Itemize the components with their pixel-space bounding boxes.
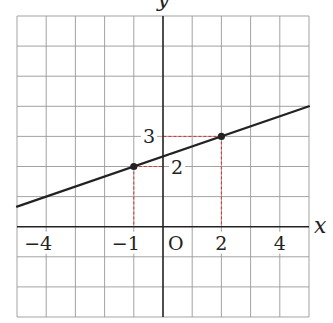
data-point [218,133,225,140]
coordinate-plane: y x −4−12432O [0,0,333,323]
x-tick-label: −1 [112,232,140,254]
x-tick-label: 4 [274,232,286,254]
y-axis-label: y [156,0,170,11]
y-tick-label: 2 [171,156,183,178]
x-axis-label: x [314,213,327,238]
y-tick-label: 3 [143,125,155,147]
dashed-guide-lines [134,136,222,226]
x-tick-label: −4 [24,232,52,254]
data-point [130,163,137,170]
x-tick-label: 2 [215,232,227,254]
origin-label: O [168,232,184,254]
axis-labels: y x −4−12432O [24,0,327,254]
